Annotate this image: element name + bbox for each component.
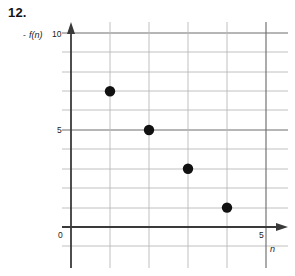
grid-lines-vertical [110, 22, 266, 268]
x-axis [62, 223, 288, 231]
data-point [144, 125, 154, 135]
math-problem-figure: 12. [0, 0, 295, 276]
data-point [222, 202, 232, 212]
y-axis-label: f(n) [29, 31, 43, 40]
grid-lines-horizontal [62, 33, 288, 246]
scatter-plot-svg [0, 0, 295, 276]
origin-label: 0 [58, 231, 63, 240]
y-axis [67, 22, 75, 268]
y-tick-label-10: 10 [52, 30, 61, 39]
y-tick-label-5: 5 [57, 126, 62, 135]
x-tick-label-5: 5 [259, 231, 264, 240]
coordinate-plane: - f(n) 10 5 0 5 n [0, 0, 295, 276]
y-axis-label-dash: - [23, 31, 26, 40]
data-point [183, 164, 193, 174]
x-axis-label: n [270, 245, 275, 254]
data-point [105, 86, 115, 96]
